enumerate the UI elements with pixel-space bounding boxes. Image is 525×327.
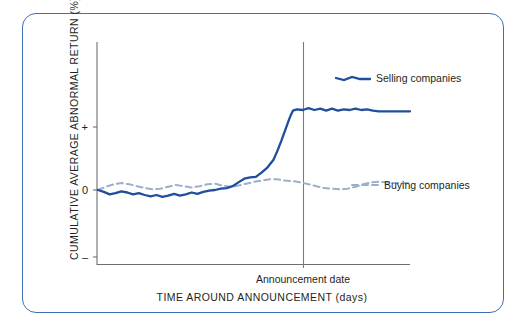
chart-canvas: + 0 – CUMULATIVE AVERAGE ABNORMAL RETURN… <box>0 0 525 327</box>
y-tick-label-plus: + <box>82 121 88 133</box>
y-tick-label-zero: 0 <box>82 184 88 196</box>
legend-label-buying: Buying companies <box>384 179 470 191</box>
x-axis-title: TIME AROUND ANNOUNCEMENT (days) <box>157 291 368 303</box>
legend-label-selling: Selling companies <box>376 72 461 84</box>
y-tick-label-minus: – <box>82 251 89 263</box>
chart-figure: + 0 – CUMULATIVE AVERAGE ABNORMAL RETURN… <box>0 0 525 327</box>
y-axis-title: CUMULATIVE AVERAGE ABNORMAL RETURN (%) <box>68 0 80 260</box>
legend-swatch-selling <box>336 77 370 80</box>
announcement-date-label: Announcement date <box>256 273 350 285</box>
